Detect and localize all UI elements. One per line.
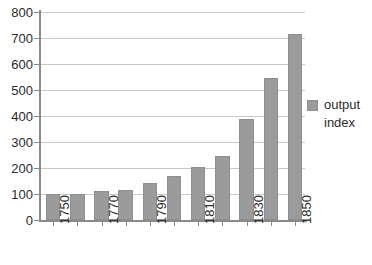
x-axis-labels: 175017701790181018301850	[41, 222, 307, 265]
legend-swatch-output-index	[307, 100, 318, 111]
x-axis-tick	[77, 222, 78, 226]
x-axis-tick-label: 1770	[107, 195, 120, 224]
x-axis-tick-label: 1850	[300, 195, 313, 224]
x-axis-tick	[150, 222, 151, 226]
y-axis-tick-label: 600	[1, 58, 33, 71]
x-axis-tick	[53, 222, 54, 226]
y-axis-tick-label: 0	[1, 214, 33, 227]
y-axis-tick-label: 700	[1, 32, 33, 45]
x-axis-tick	[126, 222, 127, 226]
bar-chart: 800 700 600 500 400 300 200 100 0 175017…	[0, 0, 372, 265]
y-axis-tick-label: 800	[1, 6, 33, 19]
x-axis-tick	[174, 222, 175, 226]
legend: output index	[307, 96, 360, 131]
x-axis-tick	[198, 222, 199, 226]
bar-series-output-index	[41, 12, 307, 220]
legend-label-output-index: output index	[324, 96, 360, 131]
x-axis-tick	[295, 222, 296, 226]
x-axis-tick	[222, 222, 223, 226]
y-axis-tick-label: 500	[1, 84, 33, 97]
x-axis-tick-label: 1810	[203, 195, 216, 224]
x-axis-tick-label: 1830	[252, 195, 265, 224]
x-axis-tick-label: 1750	[58, 195, 71, 224]
x-axis-tick	[271, 222, 272, 226]
bar	[70, 194, 85, 220]
y-axis-tick-label: 200	[1, 162, 33, 175]
y-axis-labels: 800 700 600 500 400 300 200 100 0	[0, 0, 33, 265]
legend-label-line-2: index	[324, 114, 360, 132]
bar	[215, 156, 230, 221]
y-axis-tick-label: 300	[1, 136, 33, 149]
bar	[288, 34, 303, 220]
x-axis-tick	[102, 222, 103, 226]
y-axis-tick-label: 400	[1, 110, 33, 123]
x-axis-tick-label: 1790	[155, 195, 168, 224]
legend-label-line-1: output	[324, 96, 360, 114]
y-axis-tick-label: 100	[1, 188, 33, 201]
x-axis-tick	[247, 222, 248, 226]
